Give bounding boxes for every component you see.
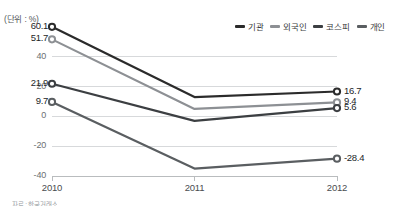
value-label-start-코스피: 21.9 — [16, 77, 48, 88]
line-chart: (단위 : %) 기관 외국인 코스피 개인 40200-20-40201020… — [0, 0, 393, 206]
data-point-marker[interactable] — [49, 24, 55, 30]
series-line-코스피 — [52, 84, 337, 121]
value-label-end-기관: 16.7 — [344, 85, 361, 96]
data-point-marker[interactable] — [49, 99, 55, 105]
data-point-marker[interactable] — [334, 88, 340, 94]
data-point-marker[interactable] — [49, 81, 55, 87]
y-axis-tick--40: -40 — [20, 170, 46, 180]
value-label-start-외국인: 51.7 — [16, 32, 48, 43]
series-line-외국인 — [52, 39, 337, 109]
chart-footnote: 자료 : 한국거래소 — [12, 199, 57, 206]
data-point-marker[interactable] — [334, 156, 340, 162]
y-axis-tick-0: 0 — [20, 110, 46, 120]
plot-area — [0, 0, 393, 206]
value-label-start-기관: 60.1 — [16, 20, 48, 31]
value-label-start-개인: 9.7 — [16, 95, 48, 106]
value-label-end-개인: -28.4 — [344, 152, 364, 163]
x-axis-tick-2011: 2011 — [172, 182, 218, 193]
y-axis-tick-40: 40 — [20, 51, 46, 61]
data-point-marker[interactable] — [334, 105, 340, 111]
data-point-marker[interactable] — [49, 36, 55, 42]
x-axis-tick-2012: 2012 — [314, 182, 360, 193]
x-axis-tick-2010: 2010 — [29, 182, 75, 193]
y-axis-tick--20: -20 — [20, 140, 46, 150]
value-label-end-코스피: 5.6 — [344, 101, 356, 112]
